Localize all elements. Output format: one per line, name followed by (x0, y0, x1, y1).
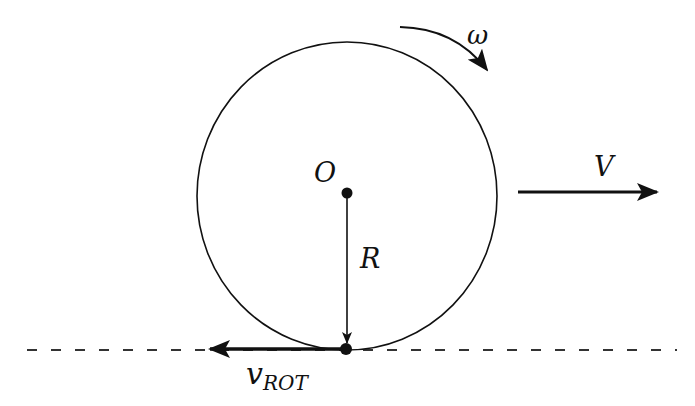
contact-point (340, 343, 352, 355)
velocity-label: V (594, 151, 616, 182)
omega-label: ω (467, 20, 488, 50)
center-label: O (314, 157, 336, 188)
v-rot-main: v (246, 356, 263, 391)
v-rot-label: vROT (246, 356, 309, 395)
rolling-wheel-diagram: ω O R V vROT (0, 0, 695, 406)
diagram-canvas: ω O R V vROT (0, 0, 695, 406)
radius-label: R (359, 243, 380, 274)
v-rot-subscript: ROT (262, 371, 309, 395)
